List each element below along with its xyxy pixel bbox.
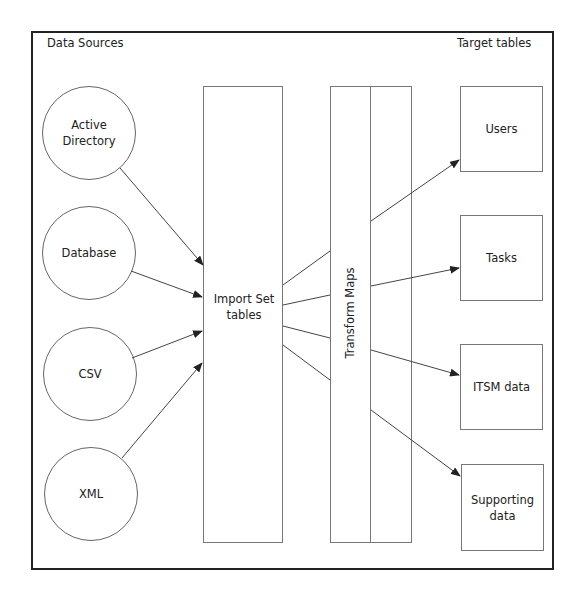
source-label: XML (79, 486, 103, 502)
target-label-line: data (471, 508, 534, 524)
source-label: CSV (78, 366, 101, 382)
target-label: Tasks (486, 250, 517, 266)
source-database: Database (42, 206, 136, 300)
target-tables-header: Target tables (457, 36, 531, 50)
source-csv: CSV (43, 327, 137, 421)
target-itsm-data: ITSM data (460, 344, 543, 430)
transform-maps-label: Transform Maps (343, 267, 357, 358)
source-label-line: Active (62, 117, 115, 133)
source-xml: XML (44, 447, 138, 541)
target-label: Users (485, 121, 517, 137)
target-users: Users (460, 86, 543, 172)
source-active-directory: Active Directory (42, 86, 136, 180)
target-label: ITSM data (473, 379, 530, 395)
import-set-label-line1: Import Set (204, 291, 284, 307)
target-label-line: Supporting (471, 492, 534, 508)
target-supporting-data: Supporting data (461, 464, 544, 551)
target-tasks: Tasks (460, 215, 543, 301)
source-label: Database (62, 245, 117, 261)
source-label-line: Directory (62, 133, 115, 149)
import-set-tables-label: Import Set tables (204, 291, 284, 323)
data-sources-header: Data Sources (47, 36, 124, 50)
import-set-label-line2: tables (204, 307, 284, 323)
transform-maps-divider (370, 86, 371, 543)
